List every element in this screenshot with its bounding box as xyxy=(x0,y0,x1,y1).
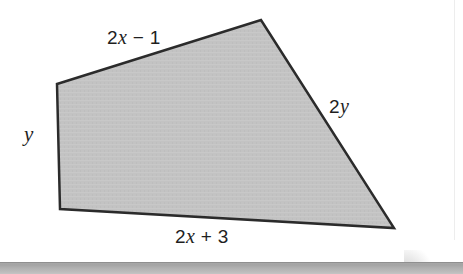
quadrilateral-diagram xyxy=(0,0,463,274)
side-label-top-constant: 1 xyxy=(150,27,161,48)
side-label-bottom-operator: + xyxy=(201,226,212,247)
side-label-bottom-variable: x xyxy=(186,225,195,247)
side-label-top-operator: − xyxy=(133,27,144,48)
side-label-bottom: 2x + 3 xyxy=(175,226,229,246)
side-label-right-text: 2 xyxy=(329,96,340,117)
side-label-top-text: 2 xyxy=(107,27,118,48)
side-label-right: 2y xyxy=(329,96,349,116)
side-label-top-variable: x xyxy=(118,26,127,48)
side-label-bottom-constant: 3 xyxy=(218,226,229,247)
figure-root: 2x − 1 2y 2x + 3 y xyxy=(0,0,463,274)
side-label-top: 2x − 1 xyxy=(107,27,161,47)
side-label-right-variable: y xyxy=(340,95,349,117)
side-label-bottom-text: 2 xyxy=(175,226,186,247)
side-label-left: y xyxy=(24,124,34,145)
page-shadow-band xyxy=(0,262,463,274)
side-label-left-variable: y xyxy=(24,122,34,146)
quadrilateral-shape xyxy=(57,20,394,228)
